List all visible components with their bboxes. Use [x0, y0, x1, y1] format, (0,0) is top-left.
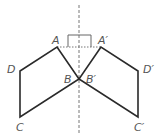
label-b-prime: B′ — [86, 73, 97, 86]
label-d: D — [7, 63, 15, 76]
reflection-diagram: A A′ B B′ D D′ C C′ — [0, 0, 164, 140]
label-b: B — [64, 73, 72, 86]
label-c-prime: C′ — [134, 121, 145, 134]
label-d-prime: D′ — [143, 63, 154, 76]
label-a-prime: A′ — [97, 34, 109, 47]
label-c: C — [16, 121, 24, 134]
label-a: A — [51, 34, 60, 47]
